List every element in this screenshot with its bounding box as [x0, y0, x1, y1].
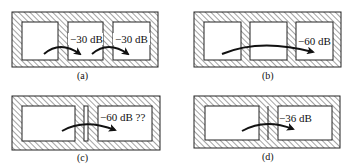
panel-c: −60 dB ?? (c)	[12, 96, 160, 164]
panel-caption: (c)	[77, 152, 88, 164]
attenuation-label: −30 dB	[115, 33, 148, 45]
attenuation-label: −36 dB	[279, 112, 312, 124]
panel-b: −60 dB (b)	[194, 12, 341, 82]
panel-d: −36 dB (d)	[194, 96, 340, 163]
attenuation-label: −30 dB	[70, 33, 103, 45]
attenuation-label: −60 dB ??	[100, 111, 145, 123]
panel-caption: (a)	[77, 70, 88, 82]
panel-caption: (b)	[262, 70, 274, 82]
room-b2	[250, 22, 287, 60]
attenuation-label: −60 dB	[298, 35, 331, 47]
room-a1	[22, 22, 58, 60]
wall-attenuation-diagram: −30 dB −30 dB (a) −60 dB (b) −60 dB ?? (…	[0, 0, 352, 168]
room-d1	[205, 106, 259, 140]
panel-caption: (d)	[262, 151, 274, 163]
panel-a: −30 dB −30 dB (a)	[12, 12, 158, 82]
room-c1	[22, 106, 75, 141]
